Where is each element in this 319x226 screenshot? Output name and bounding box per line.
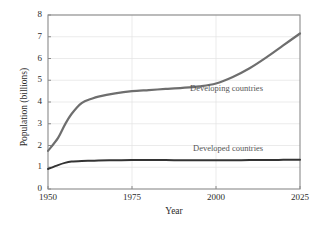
- x-tick-label: 1975: [112, 192, 152, 202]
- series-label-developing: Developing countries: [190, 83, 263, 93]
- y-tick-label: 8: [22, 9, 42, 19]
- x-tick-label: 2000: [196, 192, 236, 202]
- population-growth-chart: 876543210 1950197520002025 Population (b…: [0, 0, 319, 226]
- x-axis-title: Year: [48, 206, 300, 216]
- series-label-developed: Developed countries: [193, 143, 263, 153]
- y-axis-title: Population (billions): [19, 37, 29, 177]
- x-tick-label: 1950: [28, 192, 68, 202]
- x-tick-label: 2025: [280, 192, 319, 202]
